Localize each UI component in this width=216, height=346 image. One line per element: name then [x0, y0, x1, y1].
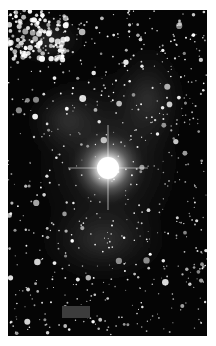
star-field-image: Grayscale astronomical image: [8, 10, 207, 336]
mask-rectangle: [62, 306, 90, 318]
image-caption: Grayscale astronomical image: [8, 10, 9, 11]
star-field-svg: [8, 10, 207, 336]
